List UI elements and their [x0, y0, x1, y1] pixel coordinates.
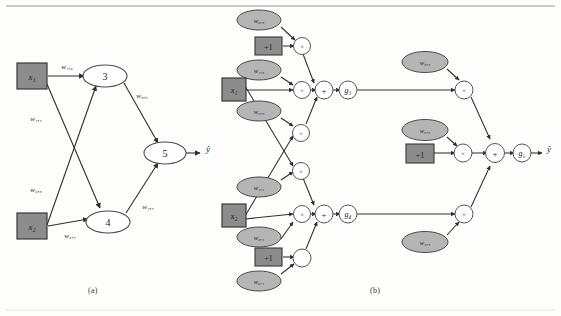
weight-w24-label-a: w₂,₄: [64, 232, 76, 240]
add-symbol-5: +: [492, 149, 497, 159]
weight-w04-label: w₀,₄: [254, 278, 265, 285]
edge-w23-to-mul3: [281, 118, 293, 126]
activation-g3-label: g₃: [345, 86, 352, 95]
edge-mul1-to-add3: [303, 54, 314, 83]
weight-w14-label-a: w₁,₄: [30, 115, 42, 123]
edge-w14-to-mul4: [281, 172, 293, 180]
neuron-3-node[interactable]: 3: [83, 65, 127, 87]
input-x1-node[interactable]: x₁: [17, 63, 47, 89]
multiply-node-w45[interactable]: ×: [455, 205, 473, 223]
add-node-4[interactable]: +: [315, 205, 333, 223]
neuron-4-label: 4: [106, 217, 111, 228]
weight-w03-label: w₀,₃: [254, 17, 264, 24]
edge-mul6-to-add4: [306, 222, 317, 249]
weight-w13-label: w₁,₃: [254, 67, 264, 74]
neuron-4-node[interactable]: 4: [86, 211, 130, 233]
weight-w03-node[interactable]: w₀,₃: [237, 10, 281, 30]
add-symbol-4: +: [321, 210, 326, 220]
weight-w04-node[interactable]: w₀,₄: [237, 271, 281, 291]
weight-w13-node[interactable]: w₁,₃: [237, 60, 281, 80]
edge-mul3-to-add3: [306, 97, 317, 124]
figure-canvas: x₁ x₂ 3 4 5 ŷ w₁,₃ w₁,₄: [0, 0, 561, 316]
diagram-b: w₀,₃ w₁,₃ w₂,₃ w₁,₄ w₂,₄ w₀,₄: [222, 10, 551, 291]
weight-w24-label: w₂,₄: [254, 234, 265, 241]
bias-bottom-node[interactable]: +1: [255, 248, 282, 266]
neuron-5-label: 5: [163, 148, 168, 159]
edge-w13-to-mul2: [281, 77, 293, 85]
weight-w35-label-a: w₃,₅: [136, 92, 148, 100]
input-x2-label: x₂: [27, 222, 35, 232]
multiply-node-w13[interactable]: ×: [294, 82, 311, 99]
edge-x2-to-mul5: [245, 214, 293, 219]
bias-output-node[interactable]: +1: [406, 144, 434, 163]
output-yhat-label-b: ŷ: [546, 144, 551, 154]
multiply-symbol-4: ×: [299, 168, 303, 176]
weight-w05-label: w₀,₅: [420, 127, 430, 134]
input-x2-label-b: x₂: [230, 211, 238, 221]
bias-top-node[interactable]: +1: [255, 37, 282, 55]
multiply-symbol-8: ×: [462, 211, 466, 219]
weight-w14-node[interactable]: w₁,₄: [237, 177, 281, 197]
edge-w35-to-mul7: [447, 69, 459, 80]
multiply-symbol-9: ×: [461, 150, 465, 158]
edge-x1-to-mul4: [245, 86, 293, 166]
multiply-node-w05[interactable]: ×: [454, 144, 472, 162]
activation-g5-node[interactable]: g₅: [513, 144, 531, 162]
activation-g4-node[interactable]: g₄: [339, 205, 357, 223]
edge-x1-to-n4: [47, 84, 100, 208]
weight-w45-node[interactable]: w₄,₅: [402, 232, 448, 253]
multiply-circle-6[interactable]: [293, 249, 311, 267]
add-node-3[interactable]: +: [315, 81, 333, 99]
add-symbol-3: +: [321, 86, 326, 96]
edge-x2-to-n3: [47, 86, 96, 225]
edge-w03-to-mul1: [281, 27, 295, 40]
weight-w45-label: w₄,₅: [420, 239, 430, 246]
neuron-3-label: 3: [103, 71, 108, 82]
activation-g3-node[interactable]: g₃: [339, 81, 357, 99]
weight-w35-node[interactable]: w₃,₅: [402, 52, 448, 73]
input-x1-label: x₁: [27, 72, 35, 82]
caption-b: (b): [370, 286, 380, 295]
edge-x2-to-mul3: [245, 136, 293, 216]
output-yhat-label-a: ŷ: [205, 144, 210, 154]
weight-w23-node[interactable]: w₂,₃: [237, 101, 281, 121]
edge-mul8-to-add5: [471, 166, 490, 207]
multiply-symbol-1: ×: [300, 43, 304, 51]
weight-w23-label: w₂,₃: [254, 108, 264, 115]
input-x1-label-b: x₁: [230, 85, 238, 95]
weight-w23-label-a: w₂,₃: [30, 186, 42, 194]
multiply-symbol-7: ×: [462, 87, 466, 95]
diagram-a: x₁ x₂ 3 4 5 ŷ w₁,₃ w₁,₄: [17, 63, 210, 240]
add-node-5[interactable]: +: [486, 144, 505, 163]
multiply-symbol-3: ×: [299, 130, 303, 138]
multiply-node-w03[interactable]: ×: [294, 38, 311, 55]
edge-w24-to-mul5: [281, 222, 293, 239]
edge-w04-to-mul6: [281, 264, 294, 274]
weight-w14-label: w₁,₄: [254, 184, 265, 191]
bias-output-label: +1: [416, 151, 425, 160]
edge-w05-to-mul9: [447, 137, 457, 146]
weight-w35-label: w₃,₅: [420, 59, 430, 66]
multiply-node-w23[interactable]: ×: [293, 125, 310, 142]
neuron-5-node[interactable]: 5: [144, 142, 186, 164]
multiply-node-w24[interactable]: ×: [294, 206, 311, 223]
edge-w45-to-mul8: [447, 222, 459, 235]
weight-w05-node[interactable]: w₀,₅: [402, 120, 448, 141]
edge-mul4-to-add4: [303, 178, 314, 205]
figure-page: x₁ x₂ 3 4 5 ŷ w₁,₃ w₁,₄: [0, 0, 561, 316]
activation-g4-label: g₄: [345, 210, 352, 219]
weight-w13-label-a: w₁,₃: [61, 63, 73, 71]
weight-w24-node[interactable]: w₂,₄: [237, 227, 281, 247]
input-x2-node[interactable]: x₂: [17, 213, 47, 239]
multiply-symbol-5: ×: [300, 211, 304, 219]
multiply-node-w04[interactable]: [293, 249, 311, 267]
input-x2-node-b[interactable]: x₂: [222, 204, 246, 227]
input-x1-node-b[interactable]: x₁: [222, 78, 246, 101]
edge-mul7-to-add5: [471, 97, 490, 139]
multiply-node-w14[interactable]: ×: [293, 163, 310, 180]
multiply-node-w35[interactable]: ×: [455, 81, 473, 99]
caption-a: (a): [88, 286, 98, 295]
edge-x2-to-n4: [48, 219, 88, 226]
multiply-symbol-2: ×: [300, 87, 304, 95]
bias-bottom-label: +1: [264, 254, 273, 263]
